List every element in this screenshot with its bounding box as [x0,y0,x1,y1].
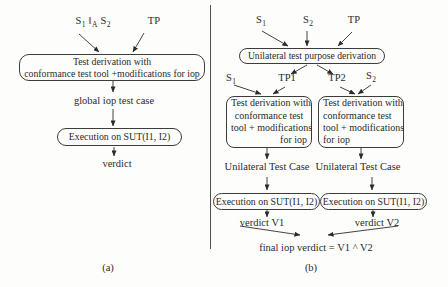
s2-subscript: 2 [107,20,111,29]
unilateral-test-case-label-left: Unilateral Test Case [225,161,310,173]
derivation-box-left-line1: Test derivation with [231,97,307,109]
tp2-label: TP2 [328,72,346,84]
final-verdict-label: final iop verdict = V1 ^ V2 [259,242,373,254]
unilateral-derivation-box: Unilateral test purpose derivation [239,48,385,64]
mid-s2-subscript: 2 [372,75,376,84]
s2-base: S [100,15,106,26]
s1-label-b: S1 [256,14,266,30]
execution-box-a-label: Execution on SUT(I1, I2) [58,131,181,143]
tp-label-b: TP [348,14,360,26]
mid-s1-label: S1 [226,72,236,88]
mid-s1-subscript: 1 [232,77,236,86]
execution-box-right-label: Execution on SUT(I1, I2) [321,196,426,208]
mid-s2-label: S2 [366,70,376,86]
s1-base: S [75,15,81,26]
derivation-box-left-line3: tool + modifications [231,122,307,134]
unilateral-test-case-label-right: Unilateral Test Case [316,161,401,173]
tp-label-a: TP [148,15,160,27]
execution-box-a: Execution on SUT(I1, I2) [57,128,182,146]
s2-subscript-b: 2 [309,19,313,28]
mid-s1-base: S [226,72,232,83]
tp1-label: TP1 [278,72,296,84]
s1-base-b: S [256,14,262,25]
derivation-box-right-line1: Test derivation with [323,97,399,109]
derivation-box-right-line3: tool + modifications [323,122,399,134]
s1-parallel-s2-label: S1‖AS2 [75,15,110,31]
verdict-v1-label: verdict V1 [240,217,284,229]
derivation-box-a-line2: conformance test tool +modifications for… [20,68,204,80]
s1-subscript-b: 1 [262,19,266,28]
verdict-label-a: verdict [102,158,131,170]
figure-canvas: S1‖AS2 TP Test derivation with conforman… [0,0,448,287]
global-iop-test-case-label: global iop test case [74,95,154,107]
derivation-box-left-line2: conformance test [231,110,307,122]
execution-box-left-label: Execution on SUT(I1, I2) [214,196,319,208]
s1-subscript: 1 [82,20,86,29]
s2-base-b: S [303,14,309,25]
verdict-v2-label: verdict V2 [355,217,399,229]
s2-label-b: S2 [303,14,313,30]
derivation-box-a-line1: Test derivation with [20,56,204,68]
caption-a: (a) [102,262,114,274]
unilateral-derivation-box-label: Unilateral test purpose derivation [240,50,384,62]
parallel-subscript: A [92,20,97,29]
derivation-box-right: Test derivation with conformance test to… [318,96,404,148]
derivation-box-right-line4: for iop [323,134,399,146]
mid-s2-base: S [366,70,372,81]
execution-box-left: Execution on SUT(I1, I2) [213,193,320,210]
parallel-operator: ‖ [89,15,92,26]
derivation-box-left-line4: for iop [231,134,307,146]
derivation-box-left: Test derivation with conformance test to… [226,96,312,148]
derivation-box-a: Test derivation with conformance test to… [19,54,205,81]
execution-box-right: Execution on SUT(I1, I2) [320,193,427,210]
caption-b: (b) [305,262,317,274]
derivation-box-right-line2: conformance test [323,110,399,122]
